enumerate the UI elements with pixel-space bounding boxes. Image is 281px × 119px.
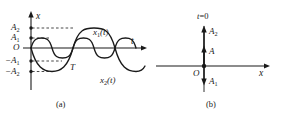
period-label-T: T bbox=[70, 63, 75, 72]
vector-A1 bbox=[201, 66, 206, 86]
curve-x2 bbox=[31, 28, 145, 72]
curve-label-x2: x2(t) bbox=[100, 76, 116, 85]
y-axis bbox=[28, 11, 33, 90]
vector-label-A2: A2 bbox=[209, 27, 218, 36]
x-axis-b bbox=[156, 64, 270, 69]
panel-b-phasor: t=0 A2 A A1 O x (b) bbox=[148, 0, 281, 119]
y-tick-label-A1: A1 bbox=[11, 33, 20, 42]
axis-label-t: t bbox=[131, 37, 134, 47]
vector-label-A: A bbox=[209, 47, 215, 56]
figure-root: A2 A1 O −A1 −A2 x t T x1(t) x2(t) (a) bbox=[0, 0, 281, 119]
y-tick-label-neg-A1: −A1 bbox=[5, 56, 20, 65]
axis-label-x-vertical: x bbox=[36, 12, 40, 22]
panel-a-waveform: A2 A1 O −A1 −A2 x t T x1(t) x2(t) (a) bbox=[0, 0, 148, 119]
origin-label-b: O bbox=[193, 69, 200, 78]
caption-panel-a: (a) bbox=[56, 100, 65, 109]
y-tick-label-neg-A2: −A2 bbox=[5, 67, 20, 76]
origin-label-a: O bbox=[13, 43, 20, 52]
y-tick-label-A2: A2 bbox=[11, 23, 20, 32]
curve-label-x1: x1(t) bbox=[93, 28, 109, 37]
t-axis bbox=[23, 46, 147, 51]
caption-panel-b: (b) bbox=[206, 100, 216, 109]
time-label-t0: t=0 bbox=[197, 12, 208, 21]
vector-label-A1: A1 bbox=[209, 77, 218, 86]
vector-A bbox=[201, 46, 206, 67]
panel-a-graphic bbox=[0, 0, 148, 119]
axis-label-x-b: x bbox=[259, 69, 263, 79]
